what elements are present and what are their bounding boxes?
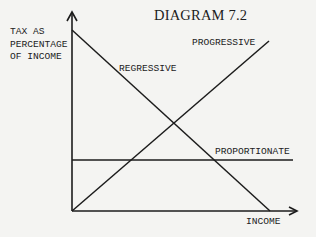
y-axis-label-line-3: OF INCOME <box>10 51 68 64</box>
y-axis-label-line-2: PERCENTAGE <box>10 39 68 52</box>
regressive-label: REGRESSIVE <box>119 63 177 76</box>
progressive-label: PROGRESSIVE <box>192 37 255 50</box>
y-axis-label-line-1: TAX AS <box>10 26 68 39</box>
regressive-line <box>72 30 270 211</box>
proportionate-label: PROPORTIONATE <box>215 146 290 159</box>
x-axis-label: INCOME <box>246 216 281 229</box>
diagram-title: DIAGRAM 7.2 <box>154 7 247 24</box>
y-axis-label: TAX AS PERCENTAGE OF INCOME <box>10 26 68 64</box>
